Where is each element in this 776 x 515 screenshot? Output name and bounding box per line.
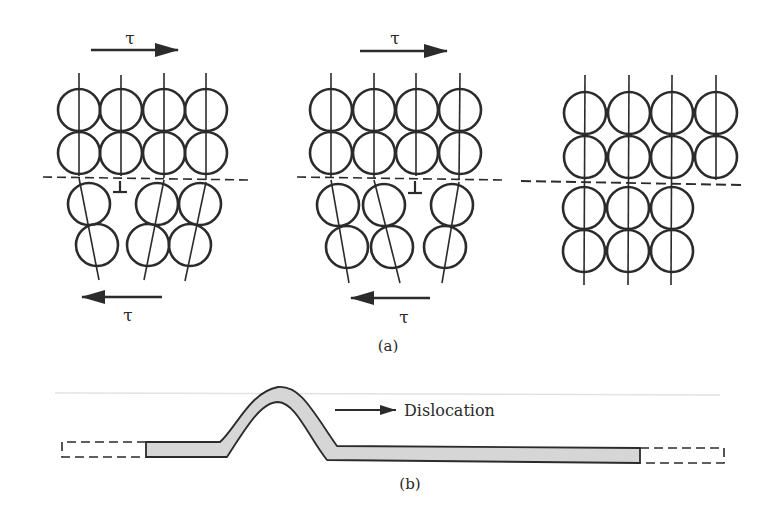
- stage-2-lattice: τ τ: [297, 28, 503, 327]
- stage-3-lattice: [521, 75, 742, 285]
- stage-1-lattice: τ τ: [43, 28, 250, 325]
- ghost-segment-left: [62, 442, 146, 457]
- edge-dislocation-icon: [408, 181, 422, 193]
- shear-stress-label-top: τ: [125, 28, 134, 48]
- edge-dislocation-icon: [113, 181, 127, 192]
- slip-plane-dashed: [43, 177, 250, 180]
- shear-stress-label-bottom: τ: [399, 307, 408, 327]
- panel-b-label: (b): [399, 475, 420, 493]
- ghost-segment-right: [640, 448, 724, 463]
- dislocation-label: Dislocation: [404, 401, 495, 420]
- shear-stress-label-bottom: τ: [123, 305, 132, 325]
- slip-plane-dashed: [521, 181, 742, 185]
- carpet-with-ruck: [146, 387, 640, 463]
- shear-stress-label-top: τ: [390, 28, 399, 48]
- panel-b-carpet-analogy: Dislocation: [62, 387, 724, 463]
- panel-a-label: (a): [378, 337, 399, 355]
- slip-plane-dashed: [297, 177, 503, 180]
- dislocation-diagram: τ τ τ: [0, 0, 776, 515]
- scan-artifact-line: [55, 393, 720, 395]
